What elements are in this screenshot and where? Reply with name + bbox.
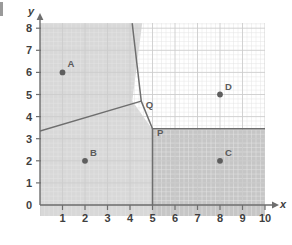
site-label-B: B xyxy=(90,147,97,158)
x-tick-label: 1 xyxy=(59,212,65,224)
vertex-label-Q: Q xyxy=(146,99,153,110)
y-axis-arrow xyxy=(37,13,44,20)
x-tick-label: 4 xyxy=(127,212,134,224)
y-tick-label: 8 xyxy=(26,22,32,34)
site-point-C xyxy=(217,158,223,164)
site-label-D: D xyxy=(225,81,232,92)
x-tick-label: 9 xyxy=(239,212,245,224)
site-label-A: A xyxy=(68,58,75,69)
site-point-D xyxy=(217,92,223,98)
x-tick-label: 5 xyxy=(149,212,155,224)
site-point-A xyxy=(60,70,66,76)
x-tick-label: 7 xyxy=(194,212,200,224)
vertex-label-P: P xyxy=(157,127,164,138)
y-tick-label: 3 xyxy=(26,133,32,145)
x-tick-label: 10 xyxy=(259,212,271,224)
origin-label: 0 xyxy=(26,199,32,211)
y-tick-label: 2 xyxy=(26,155,32,167)
y-tick-label: 1 xyxy=(26,177,32,189)
x-axis-arrow xyxy=(272,202,279,209)
x-tick-label: 3 xyxy=(104,212,110,224)
site-point-B xyxy=(82,158,88,164)
y-tick-label: 6 xyxy=(26,66,32,78)
region-C xyxy=(153,130,266,216)
x-tick-label: 8 xyxy=(217,212,223,224)
voronoi-diagram: 012345678910 12345678 x y ABCD QP xyxy=(0,0,292,245)
y-tick-label: 5 xyxy=(26,89,32,101)
x-axis-label: x xyxy=(279,198,287,210)
y-axis-label: y xyxy=(27,5,35,17)
y-tick-label: 7 xyxy=(26,44,32,56)
y-tick-label: 4 xyxy=(26,111,33,123)
y-tick-labels: 12345678 xyxy=(26,22,33,189)
x-tick-label: 2 xyxy=(82,212,88,224)
site-label-C: C xyxy=(225,147,232,158)
x-tick-label: 6 xyxy=(172,212,178,224)
